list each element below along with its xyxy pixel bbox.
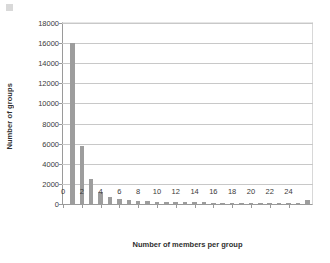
x-axis-tick-label: 10 xyxy=(153,187,161,196)
bar xyxy=(89,179,94,204)
y-axis-tick-label: 2000 xyxy=(13,179,59,188)
x-axis-tick-label: 0 xyxy=(61,187,65,196)
y-axis-title: Number of groups xyxy=(0,0,18,232)
bar xyxy=(127,200,132,204)
bar xyxy=(192,202,197,204)
x-axis-tick xyxy=(195,205,196,208)
bar xyxy=(277,203,282,204)
x-axis-tick xyxy=(63,205,64,208)
bar xyxy=(305,200,310,204)
x-axis-tick xyxy=(119,205,120,208)
bar xyxy=(258,203,263,204)
bar xyxy=(117,199,122,204)
bar xyxy=(155,202,160,205)
bar xyxy=(145,201,150,204)
y-axis-tick xyxy=(59,23,62,24)
bar xyxy=(202,202,207,204)
y-axis-tick-label: 6000 xyxy=(13,139,59,148)
y-axis-tick-label: 0 xyxy=(13,200,59,209)
x-axis-tick xyxy=(157,205,158,208)
y-axis-tick xyxy=(59,103,62,104)
y-axis-tick xyxy=(59,184,62,185)
y-axis-tick-label: 12000 xyxy=(13,79,59,88)
x-axis-tick xyxy=(289,205,290,208)
bar xyxy=(239,203,244,204)
bars-layer xyxy=(63,23,312,204)
bar xyxy=(211,203,216,205)
x-axis-tick-label: 2 xyxy=(80,187,84,196)
x-axis-tick xyxy=(138,205,139,208)
y-axis-tick-label: 10000 xyxy=(13,99,59,108)
y-axis-tick xyxy=(59,204,62,205)
y-axis-tick xyxy=(59,43,62,44)
bar xyxy=(108,197,113,204)
x-axis-tick xyxy=(213,205,214,208)
bar xyxy=(70,43,75,204)
x-axis-title: Number of members per group xyxy=(62,240,313,249)
x-axis-tick xyxy=(232,205,233,208)
bar-chart-figure: Number of groups 02000400060008000100001… xyxy=(0,0,330,263)
x-axis-tick-label: 12 xyxy=(172,187,180,196)
x-axis-tick xyxy=(176,205,177,208)
bar xyxy=(230,203,235,204)
bar xyxy=(183,202,188,204)
y-axis-tick-label: 4000 xyxy=(13,159,59,168)
y-axis-tick-label: 14000 xyxy=(13,59,59,68)
x-axis-tick-label: 18 xyxy=(228,187,236,196)
y-axis-tick xyxy=(59,124,62,125)
bar xyxy=(249,203,254,204)
y-axis-tick xyxy=(59,144,62,145)
bar xyxy=(173,202,178,204)
x-axis-tick xyxy=(251,205,252,208)
bar xyxy=(296,203,301,204)
bar xyxy=(267,203,272,204)
x-axis-tick-label: 22 xyxy=(266,187,274,196)
x-axis-tick-label: 14 xyxy=(190,187,198,196)
y-axis-tick xyxy=(59,164,62,165)
x-axis-tick-label: 4 xyxy=(98,187,102,196)
y-axis-tick xyxy=(59,63,62,64)
plot-wrapper xyxy=(62,22,313,205)
x-axis-tick xyxy=(101,205,102,208)
x-axis-tick-label: 24 xyxy=(284,187,292,196)
y-axis-tick-label: 8000 xyxy=(13,119,59,128)
bar xyxy=(286,203,291,204)
y-axis-tick-label: 16000 xyxy=(13,39,59,48)
y-axis-tick xyxy=(59,83,62,84)
x-axis-tick-label: 6 xyxy=(117,187,121,196)
x-axis-tick xyxy=(82,205,83,208)
x-axis-tick-label: 16 xyxy=(209,187,217,196)
bar xyxy=(164,202,169,204)
bar xyxy=(220,203,225,204)
y-axis-tick-label: 18000 xyxy=(13,19,59,28)
x-axis-tick-label: 20 xyxy=(247,187,255,196)
bar xyxy=(136,201,141,204)
x-axis-tick-label: 8 xyxy=(136,187,140,196)
x-axis-tick xyxy=(270,205,271,208)
